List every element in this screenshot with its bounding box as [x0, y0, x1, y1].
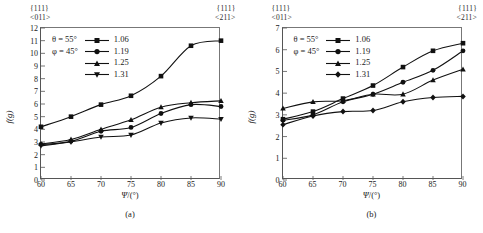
y-tick-label: 5 [276, 67, 280, 76]
square-marker-icon [84, 36, 110, 45]
legend-b: θ = 55° 1.06 φ = 45° 1.19 1.25 [294, 34, 373, 80]
plane-label: {111} [272, 4, 292, 13]
legend-marker-1-a [84, 46, 112, 58]
y-tick-label: 1 [34, 163, 38, 172]
x-tick-label: 80 [399, 180, 407, 189]
corner-label-top-right-a: {111} <211> [215, 4, 235, 22]
triangle-up-marker-icon [325, 59, 351, 68]
x-tick-label: 75 [127, 180, 135, 189]
plane-label: {111} [457, 4, 477, 13]
legend-row: φ = 45° 1.19 [294, 46, 373, 58]
legend-a: θ = 55° 1.06 φ = 45° 1.19 1.25 [52, 34, 131, 80]
x-tick-label: 65 [309, 180, 317, 189]
y-tick-label: 3 [34, 138, 38, 147]
y-tick-label: 12 [30, 24, 38, 33]
corner-label-top-right-b: {111} <211> [457, 4, 477, 22]
x-tick-label: 60 [279, 180, 287, 189]
y-tick-label: 5 [34, 112, 38, 121]
legend-row: θ = 55° 1.06 [294, 34, 373, 46]
direction-label: <211> [215, 13, 235, 22]
x-tick-label: 75 [369, 180, 377, 189]
legend-spacer-b [294, 69, 326, 81]
y-tick-label: 2 [34, 150, 38, 159]
panel-a: {111} <011> {111} <211> f(g) 01234567891… [0, 0, 242, 233]
y-tick-label: 6 [34, 100, 38, 109]
x-tick-label: 85 [187, 180, 195, 189]
y-tick-label: 1 [276, 154, 280, 163]
x-axis-label-a: Ψ/(°) [40, 190, 220, 200]
plane-label: {111} [215, 4, 235, 13]
y-tick-label: 6 [276, 45, 280, 54]
condition-theta-a: θ = 55° [52, 34, 84, 46]
legend-marker-0-a [84, 34, 112, 46]
direction-label: <011> [30, 13, 50, 22]
direction-label: <211> [457, 13, 477, 22]
series-1.25 [38, 98, 224, 146]
y-tick-label: 3 [276, 110, 280, 119]
y-axis-label-b: f(g) [245, 110, 255, 123]
direction-label: <011> [272, 13, 292, 22]
legend-row: 1.31 [52, 69, 131, 81]
legend-label-2-b: 1.25 [353, 57, 372, 69]
y-tick-label: 4 [34, 125, 38, 134]
panel-caption-b: (b) [282, 209, 462, 219]
legend-label-1-b: 1.19 [353, 46, 372, 58]
legend-row: 1.31 [294, 69, 373, 81]
y-tick-label: 7 [34, 87, 38, 96]
corner-label-top-left-b: {111} <011> [272, 4, 292, 22]
y-tick-label: 9 [34, 62, 38, 71]
legend-row: 1.25 [294, 57, 373, 69]
legend-label-0-a: 1.06 [112, 34, 131, 46]
condition-theta-b: θ = 55° [294, 34, 326, 46]
figure-root: {111} <011> {111} <211> f(g) 01234567891… [0, 0, 483, 233]
plane-label: {111} [30, 4, 50, 13]
y-tick-label: 4 [276, 89, 280, 98]
y-tick-label: 8 [34, 74, 38, 83]
x-tick-label: 90 [217, 180, 225, 189]
legend-row: 1.25 [52, 57, 131, 69]
y-tick-label: 2 [276, 132, 280, 141]
x-axis-label-b: Ψ/(°) [282, 190, 462, 200]
legend-row: φ = 45° 1.19 [52, 46, 131, 58]
condition-phi-a: φ = 45° [52, 46, 84, 58]
y-tick-label: 11 [30, 36, 38, 45]
legend-marker-3-b [325, 69, 353, 81]
x-tick-label: 80 [157, 180, 165, 189]
x-tick-label: 65 [67, 180, 75, 189]
panel-b: {111} <011> {111} <211> f(g) 01234567606… [242, 0, 483, 233]
y-axis-label-a: f(g) [4, 110, 14, 123]
square-marker-icon [325, 36, 351, 45]
diamond-marker-icon [325, 70, 351, 79]
legend-label-2-a: 1.25 [112, 57, 131, 69]
x-tick-label: 70 [339, 180, 347, 189]
legend-label-0-b: 1.06 [353, 34, 372, 46]
triangle-up-marker-icon [84, 59, 110, 68]
legend-row: θ = 55° 1.06 [52, 34, 131, 46]
legend-label-1-a: 1.19 [112, 46, 131, 58]
legend-marker-3-a [84, 69, 112, 81]
condition-phi-b: φ = 45° [294, 46, 326, 58]
legend-spacer-a [52, 57, 84, 69]
x-tick-label: 70 [97, 180, 105, 189]
circle-marker-icon [84, 47, 110, 56]
y-tick-label: 10 [30, 49, 38, 58]
series-1.31 [280, 93, 466, 127]
legend-marker-0-b [325, 34, 353, 46]
y-tick-label: 7 [276, 24, 280, 33]
triangle-down-marker-icon [84, 70, 110, 79]
legend-spacer-b [294, 57, 326, 69]
x-tick-label: 90 [459, 180, 467, 189]
circle-marker-icon [325, 47, 351, 56]
x-tick-label: 60 [37, 180, 45, 189]
legend-marker-2-a [84, 57, 112, 69]
legend-marker-1-b [325, 46, 353, 58]
legend-label-3-a: 1.31 [112, 69, 131, 81]
legend-label-3-b: 1.31 [353, 69, 372, 81]
corner-label-top-left-a: {111} <011> [30, 4, 50, 22]
legend-spacer-a [52, 69, 84, 81]
legend-marker-2-b [325, 57, 353, 69]
x-tick-label: 85 [429, 180, 437, 189]
panel-caption-a: (a) [40, 209, 220, 219]
